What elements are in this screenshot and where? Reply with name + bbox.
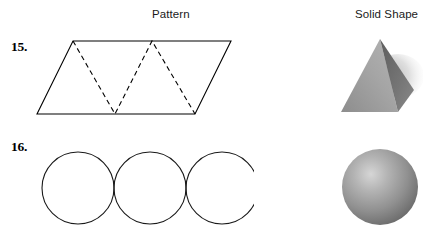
column-heading-pattern: Pattern bbox=[152, 8, 190, 20]
pattern-three-tangent-circles bbox=[36, 142, 254, 225]
worksheet-page: Pattern Solid Shape 15. 16. bbox=[0, 0, 423, 225]
parallelogram-outline bbox=[37, 41, 231, 114]
solid-shape-sphere bbox=[336, 143, 423, 225]
pattern-parallelogram-net bbox=[30, 34, 245, 126]
circle-middle bbox=[114, 152, 186, 224]
solid-shape-pyramid bbox=[336, 30, 423, 118]
column-heading-solid-shape: Solid Shape bbox=[355, 8, 418, 20]
fold-line-zigzag bbox=[73, 41, 195, 114]
sphere-body bbox=[342, 149, 418, 225]
problem-number-16: 16. bbox=[11, 139, 27, 155]
problem-number-15: 15. bbox=[11, 39, 27, 55]
circle-left bbox=[42, 152, 114, 224]
circle-right bbox=[186, 152, 254, 224]
